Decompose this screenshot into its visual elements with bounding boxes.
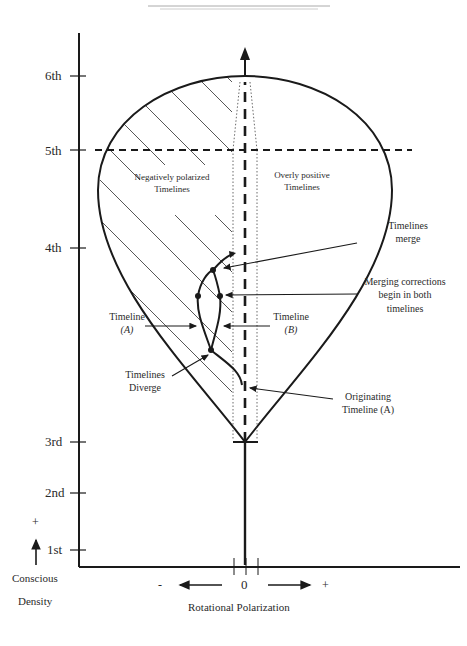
y-plus-label: + (32, 515, 39, 529)
timeline-a-label-1: Timeline (109, 311, 145, 322)
x-minus-label: - (158, 578, 162, 592)
timeline-diagram: 6th 5th 4th 3rd 2nd 1st + Conscious Dens… (0, 0, 467, 646)
positive-region-label-1: Overly positive (274, 170, 330, 180)
tick-label-4th: 4th (45, 240, 62, 255)
tick-label-2nd: 2nd (45, 485, 65, 500)
timeline-b-label-1: Timeline (273, 311, 309, 322)
y-axis-title-line1: Conscious (12, 572, 58, 584)
arrow-up-icon (240, 47, 250, 60)
diverge-label-1: Timelines (125, 369, 165, 380)
originating-label-2: Timeline (A) (342, 404, 394, 416)
header-rule (148, 6, 330, 9)
timeline-a-label-2: (A) (121, 324, 134, 336)
merge-label-2: merge (396, 233, 421, 244)
tick-label-5th: 5th (45, 143, 62, 158)
timeline-b-label-2: (B) (285, 324, 298, 336)
originating-label-1: Originating (345, 391, 391, 402)
positive-region-label-2: Timelines (284, 182, 320, 192)
x-zero-label: 0 (241, 577, 248, 592)
negative-region-label-2: Timelines (154, 184, 190, 194)
negative-region-label-1: Negatively polarized (134, 172, 210, 182)
merge-label-1: Timelines (388, 220, 428, 231)
x-plus-label: + (322, 578, 329, 592)
merging-corrections-label-1: Merging corrections (364, 276, 445, 287)
tick-label-3rd: 3rd (45, 434, 63, 449)
merging-corrections-label-2: begin in both (379, 289, 432, 300)
merging-corrections-label-3: timelines (387, 303, 424, 314)
x-axis-title: Rotational Polarization (188, 601, 290, 613)
tick-label-1st: 1st (47, 542, 63, 557)
diverge-label-2: Diverge (129, 382, 162, 393)
y-axis-title-line2: Density (18, 595, 53, 607)
tick-label-6th: 6th (45, 68, 62, 83)
